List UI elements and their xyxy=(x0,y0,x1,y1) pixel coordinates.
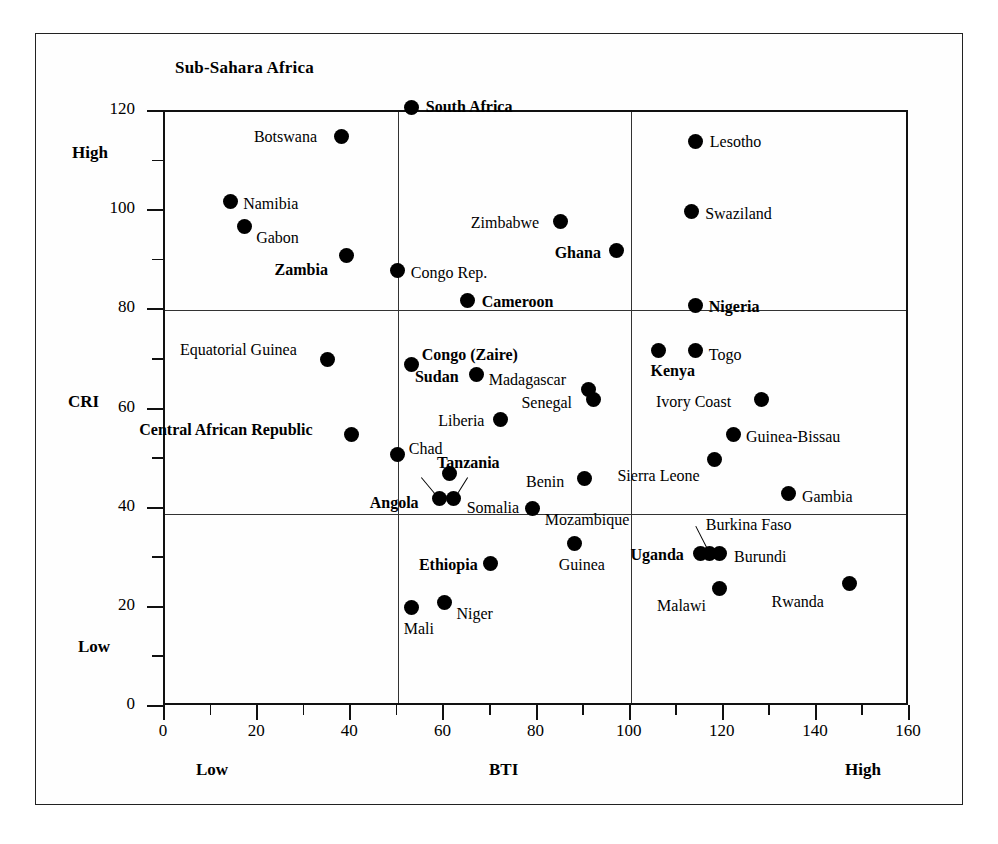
data-point-label: Angola xyxy=(370,495,419,511)
data-point-label: Congo Rep. xyxy=(411,265,487,281)
y-axis-tick-label: 120 xyxy=(95,99,135,119)
data-point-label: South Africa xyxy=(426,99,513,115)
data-point-marker[interactable] xyxy=(693,546,708,561)
x-axis-tick-label: 160 xyxy=(878,721,938,741)
data-point-marker[interactable] xyxy=(390,447,405,462)
data-point-marker[interactable] xyxy=(344,427,359,442)
data-point-marker[interactable] xyxy=(567,536,582,551)
data-point-marker[interactable] xyxy=(688,343,703,358)
data-point-label: Guinea-Bissau xyxy=(746,429,840,445)
y-axis-tick-minor xyxy=(152,259,163,261)
data-point-marker[interactable] xyxy=(688,134,703,149)
data-point-label: Niger xyxy=(456,606,492,622)
x-axis-tick-major xyxy=(536,705,538,720)
data-point-label: Senegal xyxy=(521,395,572,411)
y-axis-tick-major xyxy=(147,308,163,310)
data-point-label: Gambia xyxy=(802,489,853,505)
data-point-marker[interactable] xyxy=(404,600,419,615)
data-point-label: Mali xyxy=(404,621,434,637)
quadrant-divider-vertical xyxy=(631,112,632,703)
data-point-marker[interactable] xyxy=(446,491,461,506)
quadrant-divider-horizontal xyxy=(165,310,906,311)
data-point-label: Central African Republic xyxy=(139,422,312,438)
data-point-marker[interactable] xyxy=(781,486,796,501)
x-axis-tick-major xyxy=(442,705,444,720)
y-axis-tick-label: 0 xyxy=(95,694,135,714)
y-axis-tick-major xyxy=(147,209,163,211)
data-point-marker[interactable] xyxy=(754,392,769,407)
y-axis-tick-minor xyxy=(152,556,163,558)
data-point-marker[interactable] xyxy=(684,204,699,219)
y-axis-tick-major xyxy=(147,705,163,707)
data-point-marker[interactable] xyxy=(707,452,722,467)
quadrant-divider-vertical xyxy=(398,112,399,703)
y-axis-high-label: High xyxy=(72,143,108,163)
data-point-marker[interactable] xyxy=(493,412,508,427)
data-point-marker[interactable] xyxy=(586,392,601,407)
y-axis-tick-major xyxy=(147,408,163,410)
x-axis-low-label: Low xyxy=(196,760,228,780)
data-point-label: Ivory Coast xyxy=(656,394,731,410)
x-axis-high-label: High xyxy=(845,760,881,780)
x-axis-tick-minor xyxy=(768,705,770,715)
data-point-marker[interactable] xyxy=(432,491,447,506)
data-point-label: Somalia xyxy=(467,500,519,516)
data-point-marker[interactable] xyxy=(237,219,252,234)
x-axis-tick-major xyxy=(815,705,817,720)
y-axis-tick-major xyxy=(147,507,163,509)
data-point-label: Liberia xyxy=(438,413,484,429)
y-axis-tick-minor xyxy=(152,457,163,459)
data-point-label: Lesotho xyxy=(710,134,762,150)
data-point-marker[interactable] xyxy=(842,576,857,591)
y-axis-title: CRI xyxy=(68,392,99,412)
y-axis-tick-minor xyxy=(152,655,163,657)
data-point-label: Guinea xyxy=(559,557,605,573)
data-point-marker[interactable] xyxy=(390,263,405,278)
x-axis-tick-label: 100 xyxy=(599,721,659,741)
x-axis-tick-label: 140 xyxy=(785,721,845,741)
data-point-label: Ethiopia xyxy=(419,557,478,573)
x-axis-tick-label: 80 xyxy=(506,721,566,741)
y-axis-tick-major xyxy=(147,110,163,112)
data-point-label: Sudan xyxy=(415,369,459,385)
data-point-marker[interactable] xyxy=(223,194,238,209)
data-point-label: Zambia xyxy=(275,262,328,278)
x-axis-tick-minor xyxy=(675,705,677,715)
x-axis-tick-label: 120 xyxy=(692,721,752,741)
data-point-marker[interactable] xyxy=(712,546,727,561)
data-point-label: Burundi xyxy=(734,549,786,565)
data-point-marker[interactable] xyxy=(460,293,475,308)
data-point-marker[interactable] xyxy=(404,100,419,115)
data-point-marker[interactable] xyxy=(469,367,484,382)
x-axis-tick-minor xyxy=(861,705,863,715)
data-point-marker[interactable] xyxy=(320,352,335,367)
data-point-marker[interactable] xyxy=(609,243,624,258)
data-point-label: Madagascar xyxy=(489,372,566,388)
data-point-marker[interactable] xyxy=(437,595,452,610)
data-point-marker[interactable] xyxy=(483,556,498,571)
data-point-label: Tanzania xyxy=(437,455,500,471)
x-axis-tick-major xyxy=(722,705,724,720)
data-point-label: Mozambique xyxy=(545,512,629,528)
data-point-label: Swaziland xyxy=(705,206,772,222)
data-point-marker[interactable] xyxy=(553,214,568,229)
data-point-marker[interactable] xyxy=(577,471,592,486)
data-point-marker[interactable] xyxy=(726,427,741,442)
data-point-marker[interactable] xyxy=(339,248,354,263)
y-axis-tick-label: 20 xyxy=(95,595,135,615)
data-point-marker[interactable] xyxy=(334,129,349,144)
data-point-label: Kenya xyxy=(651,363,695,379)
data-point-label: Congo (Zaire) xyxy=(422,347,518,363)
x-axis-tick-major xyxy=(629,705,631,720)
data-point-marker[interactable] xyxy=(712,581,727,596)
x-axis-tick-major xyxy=(163,705,165,720)
y-axis-tick-label: 80 xyxy=(95,297,135,317)
y-axis-tick-label: 40 xyxy=(95,496,135,516)
data-point-marker[interactable] xyxy=(651,343,666,358)
data-point-label: Malawi xyxy=(657,598,706,614)
data-point-label: Namibia xyxy=(243,196,298,212)
x-axis-tick-label: 20 xyxy=(226,721,286,741)
data-point-label: Zimbabwe xyxy=(471,215,539,231)
data-point-label: Botswana xyxy=(254,129,317,145)
y-axis-tick-label: 60 xyxy=(95,397,135,417)
